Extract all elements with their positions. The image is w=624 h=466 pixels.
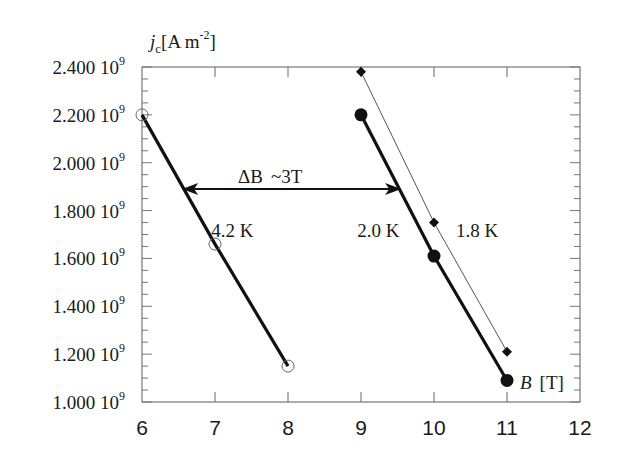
y-tick-label: 1.200 109 [53,341,126,365]
y-tick-label: 1.000 109 [53,389,126,413]
x-tick-label: 6 [136,416,148,439]
chart: 67891011121.000 1091.200 1091.400 1091.6… [0,0,624,466]
x-tick-label: 8 [282,416,294,439]
series-label: 2.0 K [357,220,400,241]
data-point [428,250,441,263]
x-tick-label: 9 [355,416,367,439]
series-line-1.8K [361,72,507,352]
series-label: 4.2 K [211,220,254,241]
y-tick-label: 1.600 109 [53,245,126,269]
x-tick-label: 7 [209,416,221,439]
y-axis-label: jc[A m-2] [147,28,216,56]
data-point [502,347,512,357]
data-point [355,108,368,121]
series-line-2.0K [361,115,507,381]
x-tick-label: 10 [422,416,445,439]
data-point [429,218,439,228]
y-tick-label: 2.400 109 [53,54,126,78]
data-point [501,374,514,387]
x-tick-label: 12 [568,416,591,439]
delta-b-label: ΔB~3T [238,166,303,187]
y-tick-label: 1.800 109 [53,198,126,222]
y-tick-label: 2.200 109 [53,102,126,126]
y-tick-label: 2.000 109 [53,150,126,174]
x-axis-label: B[T] [520,372,564,393]
data-point [356,67,366,77]
x-tick-label: 11 [496,416,518,439]
y-tick-label: 1.400 109 [53,293,126,317]
series-label: 1.8 K [456,220,499,241]
